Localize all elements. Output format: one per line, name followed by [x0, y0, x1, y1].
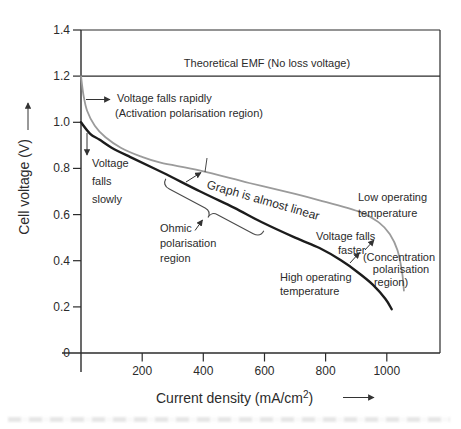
annotation-falls-rapidly-line2: (Activation polarisation region) — [115, 107, 263, 119]
annotation-concentration-line2: polarisation — [373, 263, 429, 275]
x-tick-label: 200 — [132, 364, 152, 378]
annotation-ohmic-line3: region — [160, 252, 191, 264]
connector-graph-almost-linear — [205, 158, 207, 172]
x-axis-label: Current density (mA/cm2) — [156, 389, 313, 406]
x-tick-label: 1000 — [373, 364, 400, 378]
arrow-graph-almost-linear — [186, 173, 201, 183]
fuel-cell-polarisation-chart: 00.20.40.60.81.01.21.42004006008001000 T… — [0, 0, 461, 429]
y-tick-label: 1.0 — [53, 115, 70, 129]
annotation-concentration-line1: (Concentration — [363, 251, 435, 263]
y-tick-label: 1.2 — [53, 69, 70, 83]
annotation-falls-faster-line2: faster — [338, 244, 366, 256]
annotation-falls-slowly-line1: Voltage — [92, 157, 129, 169]
annotation-falls-slowly-line3: slowly — [92, 193, 122, 205]
x-tick-label: 600 — [254, 364, 274, 378]
y-tick-label: 1.4 — [53, 23, 70, 37]
annotation-falls-slowly-line2: falls — [92, 175, 112, 187]
annotation-theoretical-emf: Theoretical EMF (No loss voltage) — [184, 57, 350, 69]
annotation-concentration-line3: region) — [374, 276, 408, 288]
annotation-ohmic-line1: Ohmic — [160, 222, 192, 234]
y-tick-label: 0.4 — [53, 254, 70, 268]
annotation-high-temp-line2: temperature — [280, 285, 339, 297]
y-axis-label: Cell voltage (V) — [16, 139, 32, 235]
annotation-high-temp-line1: High operating — [280, 271, 352, 283]
annotation-low-temp-line2: temperature — [358, 207, 417, 219]
polarisation-curve-svg: 00.20.40.60.81.01.21.42004006008001000 T… — [0, 0, 461, 429]
cropped-caption-remnant — [8, 417, 450, 422]
y-tick-label: 0.8 — [53, 161, 70, 175]
y-tick-label: 0 — [63, 346, 70, 360]
x-tick-label: 400 — [193, 364, 213, 378]
annotation-low-temp-line1: Low operating — [358, 191, 427, 203]
annotation-falls-faster-line1: Voltage falls — [316, 230, 376, 242]
y-tick-label: 0.2 — [53, 300, 70, 314]
annotation-falls-rapidly-line1: Voltage falls rapidly — [117, 92, 212, 104]
x-tick-label: 800 — [316, 364, 336, 378]
y-tick-label: 0.6 — [53, 208, 70, 222]
arrow-ohmic-region — [195, 220, 203, 231]
annotation-graph-almost-linear: Graph is almost linear — [205, 177, 321, 223]
annotation-ohmic-line2: polarisation — [160, 237, 216, 249]
